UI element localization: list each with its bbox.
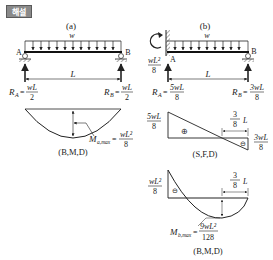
svg-text:9wL²: 9wL² (200, 222, 217, 231)
panel-b-sfd: ⊕ ⊖ 5wL 8 3wL 8 3 8 L (S,F,D) (147, 110, 268, 159)
svg-text:=: = (20, 88, 25, 97)
negative-sign-icon: ⊖ (172, 187, 178, 195)
panel-b-reaction-a: R A = 5wL 8 (151, 83, 184, 102)
panel-b-sfd-caption: (S,F,D) (193, 149, 218, 159)
distributed-load-arrows (25, 41, 121, 51)
svg-text:wL: wL (122, 83, 132, 92)
panel-b-title: (b) (200, 21, 211, 31)
svg-text:wL: wL (27, 83, 37, 92)
panel-a-support-b-label: B (125, 48, 130, 57)
svg-text:R: R (151, 87, 158, 97)
svg-text:8: 8 (255, 93, 259, 102)
panel-a-bmd: M a,max = wL² 8 (B,M,D) (25, 109, 133, 157)
panel-b-fixed-moment: wL² 8 (148, 56, 161, 75)
panel-b-support-a-label: A (170, 55, 176, 64)
svg-text:wL²: wL² (120, 130, 133, 139)
panel-b-bmd-caption: (B,M,D) (193, 246, 222, 256)
svg-text:3wL: 3wL (253, 133, 268, 142)
svg-text:8: 8 (233, 181, 237, 190)
svg-text:R: R (8, 87, 15, 97)
svg-text:L: L (242, 116, 248, 125)
panel-b-support-b-label: B (251, 47, 256, 56)
svg-text:8: 8 (152, 66, 156, 75)
svg-text:wL²: wL² (148, 56, 161, 65)
svg-text:8: 8 (124, 140, 128, 149)
svg-text:8: 8 (152, 122, 156, 131)
svg-text:=: = (115, 88, 120, 97)
svg-text:5wL: 5wL (170, 83, 184, 92)
svg-text:2: 2 (125, 93, 129, 102)
svg-text:8: 8 (259, 143, 263, 152)
svg-text:=: = (112, 135, 117, 144)
svg-text:B: B (110, 92, 114, 98)
svg-text:b,max: b,max (178, 232, 192, 238)
svg-text:R: R (231, 87, 238, 97)
panel-b-load-label: w (204, 31, 210, 40)
svg-text:5wL: 5wL (147, 112, 161, 121)
svg-text:8: 8 (233, 120, 237, 129)
svg-text:a,max: a,max (97, 139, 111, 145)
panel-a-reaction-b: R B = wL 2 (103, 83, 133, 102)
panel-a-span-label: L (69, 69, 75, 79)
svg-text:A: A (14, 92, 19, 98)
distributed-load-arrows (175, 41, 248, 51)
negative-sign-icon: ⊖ (240, 140, 246, 148)
svg-text:2: 2 (30, 93, 34, 102)
svg-text:M: M (88, 134, 97, 144)
beam-diagrams: (a) w A B L (0, 0, 273, 260)
svg-text:=: = (163, 88, 168, 97)
panel-a-support-a-label: A (16, 48, 22, 57)
panel-a-reaction-a: R A = wL 2 (8, 83, 38, 102)
panel-a-title: (a) (66, 21, 76, 31)
panel-b-reaction-b: R B = 3wL 8 (231, 83, 264, 102)
svg-text:L: L (242, 177, 248, 186)
panel-a-beam: (a) w A B L (8, 21, 133, 157)
panel-a-load-label: w (69, 31, 75, 40)
svg-text:128: 128 (202, 233, 214, 242)
svg-text:=: = (193, 228, 198, 237)
panel-a-bmd-caption: (B,M,D) (58, 147, 87, 157)
svg-text:3: 3 (233, 171, 237, 180)
svg-text:8: 8 (175, 93, 179, 102)
svg-text:3: 3 (233, 110, 237, 119)
panel-b-span-label: L (204, 69, 210, 79)
svg-text:A: A (157, 92, 162, 98)
svg-text:=: = (243, 88, 248, 97)
positive-sign-icon: ⊕ (181, 127, 188, 136)
svg-text:3wL: 3wL (249, 83, 264, 92)
panel-b-bmd: ⊖ wL² 8 3 8 L M b,max = 9wL² 128 (B,M,D) (148, 170, 248, 256)
svg-text:M: M (169, 227, 178, 237)
svg-text:R: R (103, 87, 110, 97)
svg-text:wL²: wL² (149, 177, 162, 186)
panel-b-beam: (b) w A B wL² 8 (147, 21, 268, 256)
svg-text:8: 8 (153, 187, 157, 196)
svg-text:B: B (238, 92, 242, 98)
